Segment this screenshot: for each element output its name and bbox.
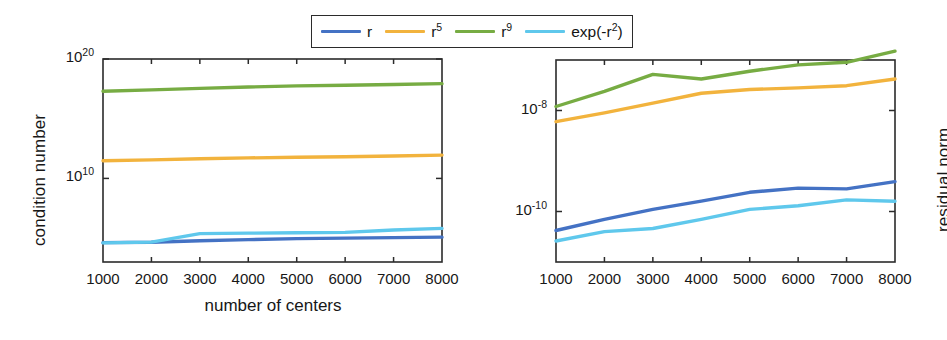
x-tick-label: 1000 xyxy=(86,270,119,287)
legend-label-expr2: exp(-r2) xyxy=(571,23,623,41)
legend-entry-expr2[interactable]: exp(-r2) xyxy=(525,23,623,41)
y-tick-label: 10-8 xyxy=(452,100,547,117)
x-tick-label: 7000 xyxy=(830,270,863,287)
x-tick-label: 6000 xyxy=(328,270,361,287)
y-tick-label: 1020 xyxy=(0,48,94,65)
legend-swatch-r9 xyxy=(455,30,495,34)
legend-entry-r[interactable]: r xyxy=(321,23,372,41)
x-tick-label: 5000 xyxy=(280,270,313,287)
x-tick-label: 7000 xyxy=(377,270,410,287)
x-axis-label-left: number of centers xyxy=(103,296,443,316)
series-line-r xyxy=(556,182,895,231)
x-tick-label: 5000 xyxy=(733,270,766,287)
chart-panel-condition-number: condition number number of centers 10002… xyxy=(0,0,473,340)
legend-swatch-r5 xyxy=(385,30,425,34)
y-axis-label-right: residual norm xyxy=(934,128,947,232)
legend-label-r9: r9 xyxy=(501,23,512,41)
x-tick-label: 2000 xyxy=(588,270,621,287)
y-tick-label: 10-10 xyxy=(452,201,547,218)
x-tick-label: 6000 xyxy=(781,270,814,287)
chart-legend: rr5r9exp(-r2) xyxy=(311,15,633,48)
x-tick-label: 3000 xyxy=(636,270,669,287)
legend-swatch-r xyxy=(321,30,361,34)
x-tick-label: 8000 xyxy=(878,270,911,287)
series-line-r-9 xyxy=(103,84,442,92)
legend-label-r: r xyxy=(367,23,372,41)
y-tick-label: 1010 xyxy=(0,167,94,184)
series-line-r-5 xyxy=(556,79,895,122)
x-tick-label: 4000 xyxy=(232,270,265,287)
x-tick-label: 2000 xyxy=(135,270,168,287)
x-tick-label: 1000 xyxy=(539,270,572,287)
legend-swatch-expr2 xyxy=(525,30,565,34)
legend-label-r5: r5 xyxy=(431,23,442,41)
series-line-r-5 xyxy=(103,155,442,161)
legend-entry-r9[interactable]: r9 xyxy=(455,23,512,41)
chart-panel-residual-norm: residual norm number of centers 10002000… xyxy=(452,0,925,340)
plot-area-right xyxy=(452,0,925,340)
x-tick-label: 4000 xyxy=(685,270,718,287)
figure-container: condition number number of centers 10002… xyxy=(0,0,947,340)
legend-entry-r5[interactable]: r5 xyxy=(385,23,442,41)
x-tick-label: 3000 xyxy=(183,270,216,287)
